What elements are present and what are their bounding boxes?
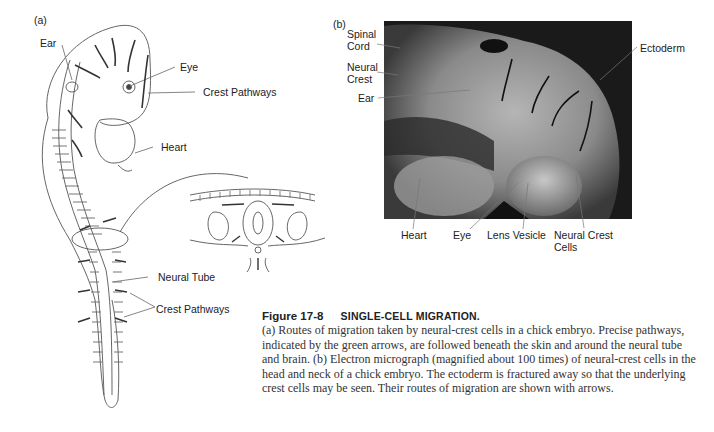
figure-number: Figure 17-8 xyxy=(262,310,323,322)
figure-title: SINGLE-CELL MIGRATION. xyxy=(341,310,480,322)
figure-caption: Figure 17-8 SINGLE-CELL MIGRATION. (a) R… xyxy=(262,310,702,396)
label-eye-b: Eye xyxy=(453,229,471,241)
label-neural-crest: Neural Crest xyxy=(347,61,378,85)
label-spinal-cord: Spinal Cord xyxy=(347,28,376,52)
caption-heading: Figure 17-8 SINGLE-CELL MIGRATION. xyxy=(262,310,702,322)
label-ear-b: Ear xyxy=(358,92,374,104)
caption-text: (a) Routes of migration taken by neural-… xyxy=(262,323,702,396)
label-ectoderm: Ectoderm xyxy=(640,42,685,54)
label-neural-crest-cells: Neural Crest Cells xyxy=(554,229,613,253)
label-lens-vesicle: Lens Vesicle xyxy=(487,229,546,241)
label-heart-b: Heart xyxy=(401,229,427,241)
